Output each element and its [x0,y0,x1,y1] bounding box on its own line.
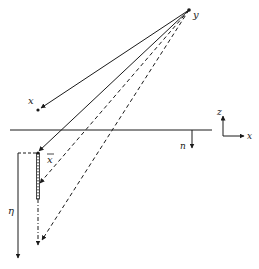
receiver-point-x [36,108,39,111]
direct-ray [41,10,189,108]
axis-z-label: z [216,107,222,117]
axis-icon [223,116,244,136]
image-ray-dashed-1 [40,10,189,183]
image-ray-dashed-2 [42,10,189,240]
ray-diagram: n z x y x x η [0,0,259,269]
axis-x-label: x [247,131,252,141]
image-point-xbar [36,151,39,154]
normal-label: n [180,141,186,151]
source-label-y: y [192,9,199,20]
image-label-xbar: x [47,154,53,165]
receiver-label-x: x [28,95,34,106]
eta-label: η [8,205,14,216]
